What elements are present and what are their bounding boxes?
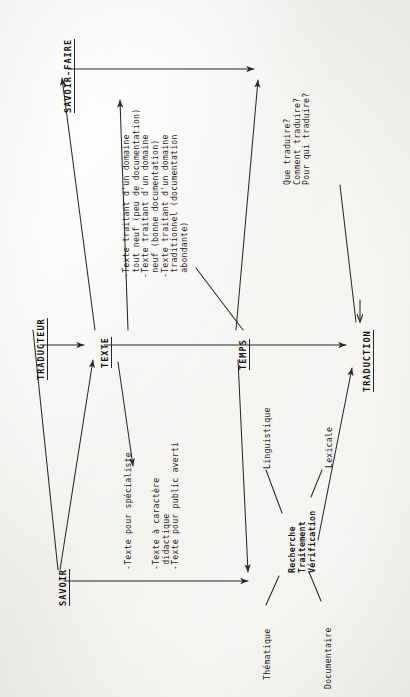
edge-temps-cluster — [238, 360, 248, 572]
branch-documentaire — [309, 572, 321, 601]
branch-label-documentaire: Documentaire — [324, 627, 334, 689]
edge-texte-savoirfaire — [62, 78, 95, 330]
edge-temps-up — [236, 80, 258, 330]
annotation-texte-specialiste: -Texte pour spécialiste — [124, 452, 134, 570]
branch-thematique — [266, 576, 279, 605]
annotation-texte-public: -Texte à caractère didactique -Texte pou… — [152, 442, 181, 570]
node-texte: TEXTE — [100, 337, 112, 368]
node-traducteur: TRADUCTEUR — [36, 318, 48, 380]
branch-label-lexicale: Lexicale — [325, 427, 335, 468]
annotation-texte-top: -Texte traitant d'un domaine tout neuf (… — [122, 109, 190, 278]
branch-lexicale — [311, 470, 322, 497]
process-core: Recherche Traitement Vérification — [288, 511, 317, 573]
branch-label-thematique: Thématique — [263, 629, 273, 680]
branch-label-linguistique: Linguistique — [263, 407, 273, 469]
edge-texte-note-bottom — [118, 362, 133, 466]
node-traduction: TRADUCTION — [362, 330, 374, 392]
node-savoir-faire: SAVOIR-FAIRE — [63, 39, 75, 113]
annotation-questions: Que traduire? Comment traduire? Pour qui… — [283, 93, 312, 185]
node-temps: TEMPS — [238, 339, 250, 370]
branch-linguistique — [266, 470, 282, 513]
diagram-page: TRADUCTEUR SAVOIR-FAIRE SAVOIR TEXTE TEM… — [0, 0, 410, 697]
node-savoir: SAVOIR — [58, 569, 70, 606]
edge-note-temps — [196, 268, 243, 330]
edge-savoir-texte — [60, 360, 93, 570]
edge-questions-traduction — [340, 185, 356, 322]
